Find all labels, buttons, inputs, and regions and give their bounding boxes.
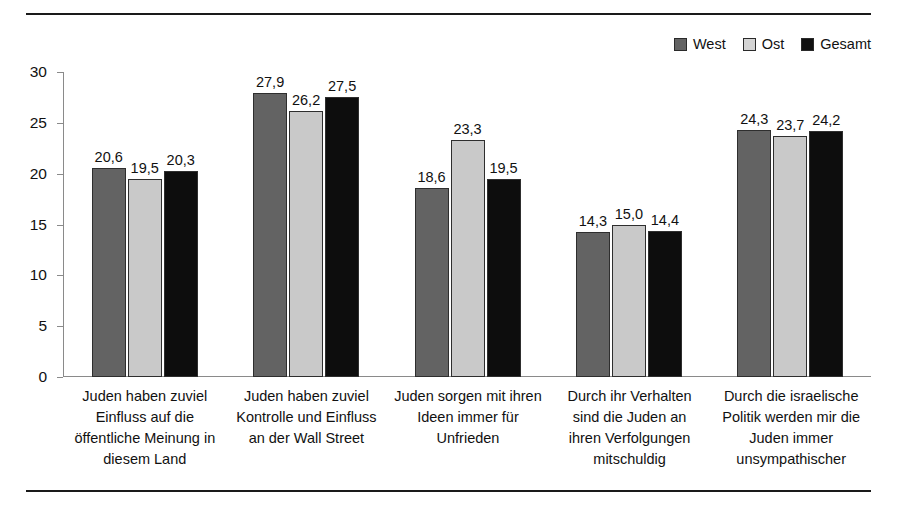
bar-group-bars: 20,619,520,3 [64, 72, 225, 377]
bar-value-label: 20,6 [95, 149, 123, 165]
bar-value-label: 27,5 [328, 78, 356, 94]
bar-west[interactable] [737, 130, 771, 377]
bar-group-bars: 24,323,724,2 [710, 72, 871, 377]
category-label-line: ihren Verfolgungen [553, 428, 707, 449]
bar-ost[interactable] [289, 111, 323, 377]
bar-slot: 20,3 [164, 72, 198, 377]
bar-gesamt[interactable] [648, 231, 682, 377]
category-label-line: unsympathischer [714, 449, 868, 470]
bar-value-label: 23,7 [776, 117, 804, 133]
bar-group: 20,619,520,3 [64, 72, 225, 377]
bar-slot: 19,5 [487, 72, 521, 377]
bar-value-label: 14,4 [651, 212, 679, 228]
category-label: Durch die israelischePolitik werden mir … [710, 386, 872, 470]
chart-legend: West Ost Gesamt [674, 36, 871, 52]
legend-label-west: West [693, 36, 726, 52]
category-label-line: Juden immer [714, 428, 868, 449]
y-axis-tick [57, 72, 63, 73]
bar-slot: 23,3 [451, 72, 485, 377]
bar-ost[interactable] [773, 136, 807, 377]
bottom-divider-rule [26, 490, 871, 492]
bar-group-bars: 18,623,319,5 [387, 72, 548, 377]
bar-slot: 15,0 [612, 72, 646, 377]
bar-slot: 19,5 [128, 72, 162, 377]
legend-label-gesamt: Gesamt [820, 36, 871, 52]
top-divider-rule [26, 13, 871, 15]
bar-value-label: 20,3 [167, 152, 195, 168]
category-labels: Juden haben zuvielEinfluss auf dieöffent… [64, 386, 872, 470]
category-label-line: Kontrolle und Einfluss [230, 407, 384, 428]
chart-page: West Ost Gesamt 051015202530 20,619,520,… [0, 0, 897, 519]
y-axis-tick [57, 377, 63, 378]
y-axis-tick [57, 225, 63, 226]
legend-swatch-gesamt-icon [801, 38, 814, 51]
legend-item-ost: Ost [743, 36, 785, 52]
category-label-line: Juden sorgen mit ihren [391, 386, 545, 407]
bar-value-label: 18,6 [417, 169, 445, 185]
y-axis-tick [57, 326, 63, 327]
category-label-line: Durch ihr Verhalten [553, 386, 707, 407]
category-label-line: öffentliche Meinung in [68, 428, 222, 449]
bar-slot: 24,3 [737, 72, 771, 377]
category-label-line: Ideen immer für [391, 407, 545, 428]
category-label-line: Durch die israelische [714, 386, 868, 407]
bar-gesamt[interactable] [325, 97, 359, 377]
bar-slot: 20,6 [92, 72, 126, 377]
bar-west[interactable] [576, 232, 610, 377]
bar-value-label: 23,3 [453, 121, 481, 137]
bar-slot: 18,6 [415, 72, 449, 377]
bar-value-label: 24,3 [740, 111, 768, 127]
bar-groups: 20,619,520,327,926,227,518,623,319,514,3… [64, 72, 871, 377]
bar-gesamt[interactable] [487, 179, 521, 377]
bar-value-label: 15,0 [615, 206, 643, 222]
y-axis-tick [57, 123, 63, 124]
y-axis-tick-label: 5 [38, 317, 47, 335]
category-label-line: an der Wall Street [230, 428, 384, 449]
plot-area: 051015202530 20,619,520,327,926,227,518,… [63, 72, 871, 377]
y-axis-tick-label: 20 [30, 165, 47, 183]
category-label: Juden haben zuvielKontrolle und Einfluss… [226, 386, 388, 470]
y-axis-tick-label: 15 [30, 216, 47, 234]
y-axis-tick [57, 275, 63, 276]
bar-ost[interactable] [451, 140, 485, 377]
bar-slot: 14,4 [648, 72, 682, 377]
category-label-line: sind die Juden an [553, 407, 707, 428]
legend-item-gesamt: Gesamt [801, 36, 871, 52]
bar-group: 24,323,724,2 [710, 72, 871, 377]
bar-value-label: 27,9 [256, 74, 284, 90]
bar-ost[interactable] [128, 179, 162, 377]
bar-west[interactable] [253, 93, 287, 377]
y-axis-tick [57, 174, 63, 175]
bar-value-label: 14,3 [579, 213, 607, 229]
bar-slot: 27,9 [253, 72, 287, 377]
bar-group-bars: 27,926,227,5 [225, 72, 386, 377]
bar-value-label: 19,5 [131, 160, 159, 176]
legend-label-ost: Ost [762, 36, 785, 52]
bar-value-label: 24,2 [812, 112, 840, 128]
category-label: Durch ihr Verhaltensind die Juden anihre… [549, 386, 711, 470]
category-label-line: Juden haben zuviel [230, 386, 384, 407]
bar-group: 27,926,227,5 [225, 72, 386, 377]
bar-slot: 27,5 [325, 72, 359, 377]
legend-swatch-ost-icon [743, 38, 756, 51]
bar-gesamt[interactable] [809, 131, 843, 377]
bar-slot: 24,2 [809, 72, 843, 377]
bar-slot: 26,2 [289, 72, 323, 377]
bar-group: 14,315,014,4 [548, 72, 709, 377]
bar-gesamt[interactable] [164, 171, 198, 377]
y-axis-tick-label: 25 [30, 114, 47, 132]
bar-west[interactable] [92, 168, 126, 377]
legend-item-west: West [674, 36, 726, 52]
bar-value-label: 26,2 [292, 92, 320, 108]
legend-swatch-west-icon [674, 38, 687, 51]
bar-group: 18,623,319,5 [387, 72, 548, 377]
category-label-line: Politik werden mir die [714, 407, 868, 428]
bar-west[interactable] [415, 188, 449, 377]
category-label-line: mitschuldig [553, 449, 707, 470]
category-label-line: Unfrieden [391, 428, 545, 449]
bar-ost[interactable] [612, 225, 646, 378]
category-label-line: Juden haben zuviel [68, 386, 222, 407]
bar-slot: 14,3 [576, 72, 610, 377]
bar-value-label: 19,5 [489, 160, 517, 176]
category-label: Juden haben zuvielEinfluss auf dieöffent… [64, 386, 226, 470]
